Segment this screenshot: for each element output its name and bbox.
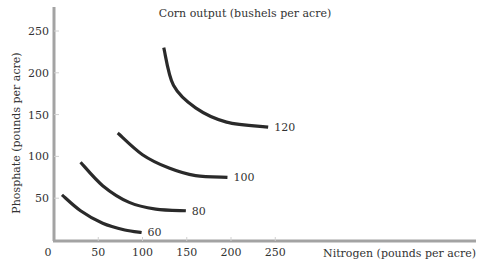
y-tick-label: 50 [35, 192, 49, 205]
isoquant-curve-100 [118, 133, 228, 177]
y-tick-label: 250 [28, 25, 49, 38]
isoquant-chart: 05010015020025050100150200250 6080100120… [0, 0, 492, 266]
isoquant-curve-60 [62, 195, 142, 233]
x-tick-label: 100 [132, 246, 153, 259]
x-axis-label: Nitrogen (pounds per acre) [323, 247, 476, 260]
x-tick-label: 0 [45, 246, 52, 259]
curve-label-60: 60 [148, 226, 162, 239]
y-tick-label: 100 [28, 150, 49, 163]
x-tick-label: 200 [221, 246, 242, 259]
isoquant-curves [62, 48, 268, 233]
axes [53, 7, 476, 241]
x-tick-label: 250 [265, 246, 286, 259]
curve-label-120: 120 [274, 121, 295, 134]
y-tick-label: 150 [28, 109, 49, 122]
isoquant-curve-120 [164, 48, 268, 127]
curve-label-80: 80 [192, 205, 206, 218]
y-axis-label: Phosphate (pounds per acre) [10, 52, 23, 213]
x-tick-label: 50 [91, 246, 105, 259]
curve-labels: 6080100120 [148, 121, 296, 239]
x-tick-label: 150 [176, 246, 197, 259]
y-tick-label: 200 [28, 67, 49, 80]
chart-title: Corn output (bushels per acre) [159, 7, 331, 20]
curve-label-100: 100 [233, 171, 254, 184]
tick-labels: 05010015020025050100150200250 [28, 25, 286, 259]
